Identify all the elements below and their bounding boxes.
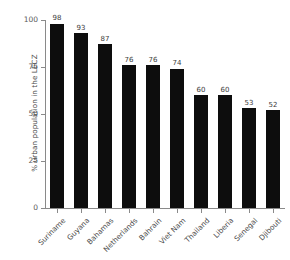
bar — [74, 33, 89, 208]
x-tick-mark — [129, 209, 130, 213]
bar-value-label: 98 — [42, 14, 72, 22]
bar — [50, 24, 65, 208]
x-tick-mark — [249, 209, 250, 213]
y-tick-label: 0 — [0, 204, 38, 212]
bar — [266, 110, 281, 208]
x-tick-mark — [81, 209, 82, 213]
x-tick-mark — [177, 209, 178, 213]
bar — [170, 69, 185, 208]
x-tick-mark — [225, 209, 226, 213]
bar — [98, 44, 113, 208]
y-tick-label: 50 — [0, 110, 38, 118]
y-axis-line — [45, 20, 46, 209]
x-tick-mark — [201, 209, 202, 213]
bar-value-label: 52 — [258, 101, 288, 109]
bar — [242, 108, 257, 208]
y-tick-label: 75 — [0, 63, 38, 71]
x-tick-mark — [57, 209, 58, 213]
x-tick-mark — [153, 209, 154, 213]
bar-value-label: 74 — [162, 59, 192, 67]
y-tick-label: 25 — [0, 157, 38, 165]
bar-value-label: 60 — [210, 86, 240, 94]
bar-chart: % urban population in the LECZ 025507510… — [0, 0, 290, 260]
bar — [218, 95, 233, 208]
y-tick-mark — [41, 161, 45, 162]
bar — [194, 95, 209, 208]
x-tick-mark — [105, 209, 106, 213]
bar — [122, 65, 137, 208]
y-tick-mark — [41, 114, 45, 115]
bar — [146, 65, 161, 208]
bar-value-label: 93 — [66, 24, 96, 32]
y-tick-label: 100 — [0, 16, 38, 24]
bar-value-label: 87 — [90, 35, 120, 43]
y-tick-mark — [41, 208, 45, 209]
x-tick-mark — [273, 209, 274, 213]
y-tick-mark — [41, 67, 45, 68]
